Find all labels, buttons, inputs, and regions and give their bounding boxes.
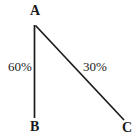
edge-label-a-c: 30% (83, 60, 107, 73)
edge-line-a-c (36, 26, 125, 121)
node-label-c: C (122, 121, 132, 135)
node-label-b: B (30, 120, 39, 134)
node-label-a: A (30, 4, 40, 18)
diagram-canvas: A B C 60% 30% (0, 0, 139, 140)
edge-label-a-b: 60% (8, 60, 32, 73)
